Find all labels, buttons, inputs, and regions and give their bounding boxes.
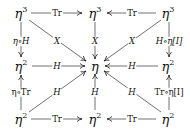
node-bot-right: η2 [162, 112, 175, 126]
label-bot-right-to-mid-right: Tr∘η[I] [154, 88, 185, 97]
node-exponent: 2 [22, 111, 27, 120]
commutative-diagram: η3 η3 η3 η2 η η2 η2 η2 η2 Tr Tr Tr Tr η∘… [0, 0, 190, 131]
node-mid-left: η2 [15, 59, 28, 73]
label-top-right-to-top-center: Tr [126, 9, 138, 18]
node-top-center: η3 [89, 6, 102, 20]
node-symbol: η [162, 59, 170, 74]
node-top-right: η3 [162, 6, 175, 20]
label-mid-left-to-center: H [52, 62, 61, 71]
label-top-right-to-mid-right: H∘η[I] [155, 37, 184, 46]
label-top-left-to-center: X [53, 37, 61, 46]
label-top-left-to-top-center: Tr [51, 9, 63, 18]
node-bot-left: η2 [15, 112, 28, 126]
label-bot-right-to-center: H [127, 88, 136, 97]
node-top-left: η3 [15, 6, 28, 20]
node-exponent: 2 [169, 111, 174, 120]
node-symbol: η [89, 6, 97, 21]
node-exponent: 2 [169, 58, 174, 67]
node-exponent: 2 [22, 58, 27, 67]
label-bot-left-to-bot-center: Tr [51, 115, 63, 124]
node-symbol: η [162, 112, 170, 127]
node-exponent: 2 [96, 111, 101, 120]
node-symbol: η [15, 59, 23, 74]
label-top-right-to-center: X [128, 37, 136, 46]
node-exponent: 3 [169, 5, 174, 14]
node-exponent: 3 [96, 5, 101, 14]
node-symbol: η [162, 6, 170, 21]
label-bot-left-to-mid-left: η∘Tr [11, 88, 32, 97]
node-symbol: η [91, 59, 99, 74]
label-top-center-to-center: X [91, 37, 99, 46]
node-exponent: 3 [22, 5, 27, 14]
node-bot-center: η2 [89, 112, 102, 126]
node-symbol: η [15, 112, 23, 127]
node-symbol: η [89, 112, 97, 127]
label-bot-center-to-center: H [90, 88, 99, 97]
label-bot-right-to-bot-center: Tr [126, 115, 138, 124]
label-top-left-to-mid-left: η∘H [12, 37, 31, 46]
label-mid-right-to-center: H [127, 62, 136, 71]
node-center: η [91, 60, 99, 73]
node-mid-right: η2 [162, 59, 175, 73]
label-bot-left-to-center: H [52, 88, 61, 97]
node-symbol: η [15, 6, 23, 21]
